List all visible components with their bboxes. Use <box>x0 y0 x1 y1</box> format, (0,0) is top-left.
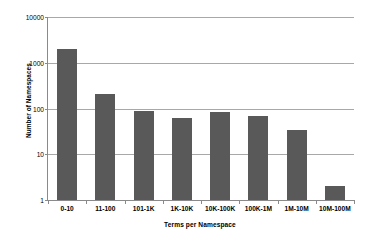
y-tick-label: 100 <box>33 105 44 112</box>
bar[interactable] <box>172 118 192 200</box>
x-tick-label: 0-10 <box>61 205 74 212</box>
x-tick-label: 1M-10M <box>285 205 309 212</box>
x-tick-label: 1K-10K <box>171 205 194 212</box>
x-tick-mark <box>163 200 164 204</box>
y-axis-title: Number of Namespaces <box>25 26 32 176</box>
bar-slot <box>48 17 86 200</box>
bar-chart: Number of Namespaces 110100100010000 0-1… <box>0 0 378 242</box>
x-tick-mark <box>125 200 126 204</box>
y-tick-label: 1 <box>40 197 44 204</box>
x-tick-mark <box>354 200 355 204</box>
bar-slot <box>86 17 124 200</box>
bar-slot <box>163 17 201 200</box>
y-tick-mark <box>45 17 48 18</box>
x-tick-mark <box>278 200 279 204</box>
x-tick-label: 100K-1M <box>245 205 272 212</box>
y-tick-mark <box>45 154 48 155</box>
y-tick-label: 1000 <box>29 59 44 66</box>
y-tick-mark <box>45 63 48 64</box>
bar[interactable] <box>287 130 307 200</box>
x-tick-mark <box>86 200 87 204</box>
x-tick-mark <box>48 200 49 204</box>
y-tick-label: 10000 <box>26 14 44 21</box>
x-tick-label: 10M-100M <box>319 205 351 212</box>
bar[interactable] <box>134 111 154 200</box>
bar[interactable] <box>325 186 345 200</box>
bar-slot <box>201 17 239 200</box>
bar-slot <box>278 17 316 200</box>
y-tick-mark <box>45 109 48 110</box>
x-tick-mark <box>239 200 240 204</box>
bar-slot <box>316 17 354 200</box>
x-tick-mark <box>316 200 317 204</box>
x-tick-label: 11-100 <box>95 205 115 212</box>
bar-slot <box>125 17 163 200</box>
y-tick-label: 10 <box>37 151 44 158</box>
x-axis-title: Terms per Namespace <box>47 221 353 228</box>
bar[interactable] <box>57 49 77 200</box>
x-tick-label: 10K-100K <box>205 205 235 212</box>
x-tick-mark <box>201 200 202 204</box>
bar[interactable] <box>210 112 230 200</box>
bars-layer <box>48 17 354 200</box>
plot-area: 110100100010000 0-1011-100101-1K1K-10K10… <box>47 17 354 201</box>
bar-slot <box>239 17 277 200</box>
bar[interactable] <box>95 94 115 200</box>
x-tick-label: 101-1K <box>133 205 155 212</box>
bar[interactable] <box>248 116 268 200</box>
